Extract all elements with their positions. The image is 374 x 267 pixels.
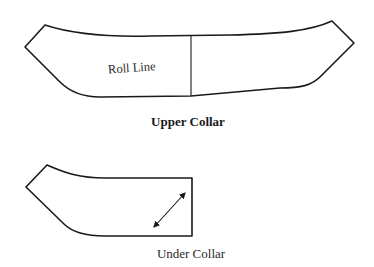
upper-collar-piece: Roll Line Upper Collar — [25, 21, 354, 129]
collar-pattern-diagram: Roll Line Upper Collar Under Collar — [0, 0, 374, 267]
upper-collar-outline — [25, 21, 354, 97]
grainline-double-arrow-icon — [154, 193, 185, 227]
upper-collar-caption: Upper Collar — [151, 114, 225, 129]
under-collar-piece: Under Collar — [26, 165, 226, 261]
roll-line-label: Roll Line — [108, 59, 157, 76]
under-collar-caption: Under Collar — [157, 246, 226, 261]
under-collar-outline — [26, 165, 192, 236]
